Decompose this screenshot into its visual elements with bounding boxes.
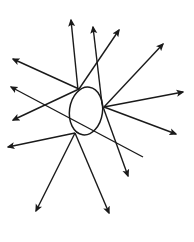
arrow-a13: [75, 133, 109, 213]
diagram-canvas: [0, 0, 194, 242]
radiating-arrows-diagram: [0, 0, 194, 242]
arrow-a12: [36, 133, 75, 211]
arrow-a11: [8, 133, 75, 147]
arrows-group: [8, 20, 183, 213]
arrow-a1: [71, 20, 78, 90]
arrow-a4: [13, 59, 79, 89]
arrow-a9: [104, 107, 176, 134]
arrow-a6: [11, 87, 143, 157]
